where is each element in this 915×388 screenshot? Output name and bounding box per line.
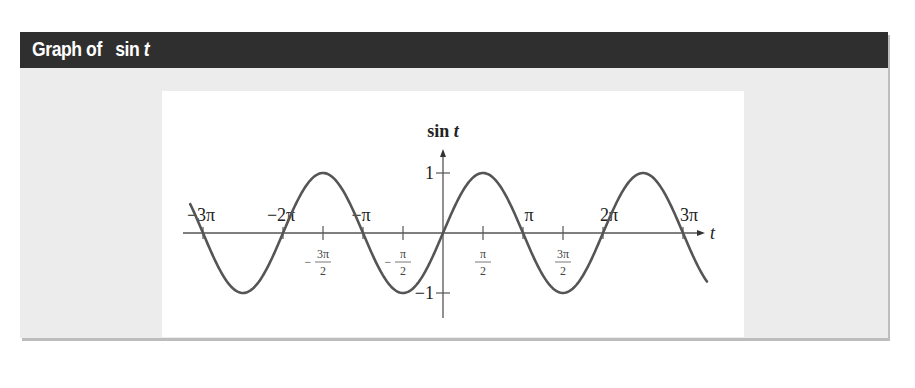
fraction-denominator: 2 [320, 264, 326, 278]
sine-chart: tsin t1−1−3π−2π−ππ2π3π3π2−π2−π23π2 [162, 91, 744, 337]
y-tick-label: 1 [425, 163, 434, 183]
fraction-denominator: 2 [480, 264, 486, 278]
title-prefix: Graph of [32, 38, 102, 60]
chart-panel: tsin t1−1−3π−2π−ππ2π3π3π2−π2−π23π2 [162, 91, 744, 337]
figure-frame: Graph of sin t tsin t1−1−3π−2π−ππ2π3π3π2… [20, 32, 888, 338]
title-var: t [144, 38, 149, 60]
fraction-numerator: π [480, 247, 486, 261]
fraction-numerator: π [400, 247, 406, 261]
y-axis-label: sin t [427, 121, 460, 141]
figure-title: Graph of sin t [32, 38, 149, 61]
x-tick-label: π [524, 205, 533, 225]
x-tick-label: 3π [680, 205, 698, 225]
fraction-sign: − [305, 255, 312, 269]
fraction-denominator: 2 [560, 264, 566, 278]
fraction-numerator: 3π [557, 247, 569, 261]
y-axis-arrow-icon [440, 149, 446, 157]
x-axis-label: t [710, 223, 716, 243]
x-axis-arrow-icon [697, 230, 705, 236]
fraction-numerator: 3π [317, 247, 329, 261]
y-tick-label: −1 [415, 283, 434, 303]
fraction-denominator: 2 [400, 264, 406, 278]
title-bar: Graph of sin t [20, 32, 888, 68]
title-func: sin [115, 38, 139, 60]
fraction-sign: − [385, 255, 392, 269]
